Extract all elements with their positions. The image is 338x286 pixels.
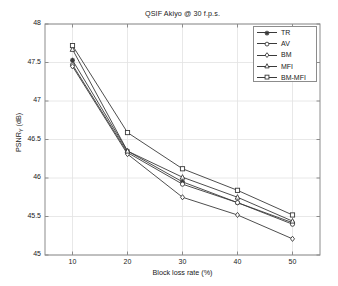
legend-marker-glyph	[256, 50, 278, 60]
y-axis-tick-label: 46	[13, 173, 41, 180]
marker-circle	[265, 42, 269, 46]
legend-marker-star-icon	[256, 28, 278, 38]
legend-marker-circle-icon	[256, 39, 278, 49]
marker-star	[265, 30, 270, 35]
legend-marker-square-icon	[256, 72, 278, 82]
legend-marker-glyph	[256, 72, 278, 82]
legend-label: BM	[281, 51, 292, 58]
marker-square	[235, 188, 239, 192]
legend-label: TR	[281, 29, 290, 36]
x-axis-tick-label: 40	[223, 258, 253, 265]
marker-square	[180, 167, 184, 171]
y-axis-tick-label: 47.5	[13, 58, 41, 65]
marker-circle	[180, 182, 184, 186]
legend-label: BM-MFI	[281, 74, 306, 81]
chart-legend: TRAVBMMFIBM-MFI	[253, 26, 317, 82]
legend-marker-glyph	[256, 61, 278, 71]
marker-triangle	[265, 64, 269, 68]
legend-item-tr: TR	[254, 27, 316, 38]
marker-square	[265, 76, 269, 80]
marker-square	[70, 43, 74, 47]
x-axis-tick-label: 50	[278, 258, 308, 265]
marker-circle	[235, 201, 239, 205]
legend-marker-triangle-icon	[256, 61, 278, 71]
marker-square	[125, 130, 129, 134]
y-axis-tick-label: 46.5	[13, 135, 41, 142]
marker-diamond	[265, 53, 269, 58]
x-axis-tick-label: 10	[58, 258, 88, 265]
x-axis-tick-label: 20	[113, 258, 143, 265]
legend-item-bm: BM	[254, 49, 316, 60]
legend-marker-glyph	[256, 28, 278, 38]
marker-star	[70, 58, 75, 63]
y-axis-tick-label: 45	[13, 250, 41, 257]
chart-figure: QSIF Akiyo @ 30 f.p.s. PSNRY (dB) Block …	[0, 0, 338, 286]
legend-item-bm-mfi: BM-MFI	[254, 72, 316, 83]
y-axis-tick-label: 45.5	[13, 212, 41, 219]
y-axis-tick-label: 47	[13, 96, 41, 103]
x-axis-tick-label: 30	[168, 258, 198, 265]
legend-marker-glyph	[256, 39, 278, 49]
legend-label: MFI	[281, 63, 293, 70]
legend-label: AV	[281, 40, 290, 47]
y-axis-tick-label: 48	[13, 19, 41, 26]
marker-triangle	[290, 219, 295, 224]
marker-triangle	[180, 175, 185, 180]
marker-triangle	[235, 195, 240, 200]
marker-square	[290, 213, 294, 217]
legend-marker-diamond-icon	[256, 50, 278, 60]
marker-diamond	[290, 236, 294, 241]
legend-item-mfi: MFI	[254, 61, 316, 72]
marker-diamond	[180, 195, 184, 200]
legend-item-av: AV	[254, 38, 316, 49]
